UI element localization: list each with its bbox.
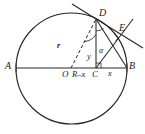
point-label-a: A <box>5 61 11 71</box>
segment-label-r-minus-x: R–x <box>72 70 85 79</box>
angle-label-alpha: α <box>99 47 103 55</box>
radius-od-dashed <box>71 19 96 68</box>
segment-label-y: y <box>87 52 91 61</box>
point-label-b: B <box>129 61 135 71</box>
segment-label-radius: r <box>57 41 60 50</box>
geometry-figure: A B O C D E r y R–x x α <box>0 0 145 134</box>
point-label-d: D <box>99 8 106 18</box>
point-label-e: E <box>119 23 125 33</box>
point-label-c: C <box>92 70 98 79</box>
tangent-line-at-d <box>72 4 143 48</box>
segment-ce <box>96 19 133 68</box>
segment-label-x: x <box>108 69 112 78</box>
geometry-canvas <box>0 0 145 134</box>
point-label-o: O <box>62 70 69 79</box>
